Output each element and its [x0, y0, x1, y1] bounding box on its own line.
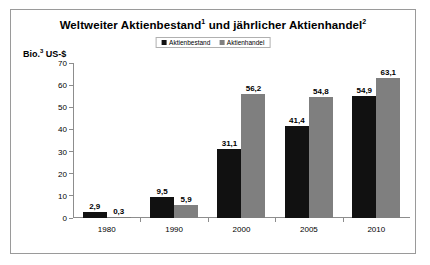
- bar-2000-aktienhandel[interactable]: 56,2: [241, 94, 265, 218]
- bar-pair: 41,454,8: [275, 63, 342, 218]
- chart-legend: Aktienbestand Aktienhandel: [156, 37, 271, 48]
- legend-label-aktienhandel: Aktienhandel: [227, 39, 265, 46]
- bar-group-2010: 54,963,12010: [343, 63, 410, 218]
- y-axis-tick-label: 0: [63, 214, 67, 223]
- chart-title-part-b: und jährlicher Aktienhandel: [205, 19, 362, 31]
- y-axis-tick-label: 40: [58, 125, 67, 134]
- bar-value-label: 63,1: [380, 68, 396, 77]
- legend-swatch-aktienhandel: [219, 40, 224, 45]
- x-axis-tick-label-2000: 2000: [208, 225, 275, 234]
- bar-2005-aktienhandel[interactable]: 54,8: [309, 97, 333, 218]
- x-axis-tick-label-1990: 1990: [140, 225, 207, 234]
- y-axis-tick-label: 20: [58, 169, 67, 178]
- y-axis-unit-currency: US-$: [43, 49, 66, 59]
- bar-1980-aktienhandel[interactable]: 0,3: [107, 217, 131, 218]
- bar-2010-aktienhandel[interactable]: 63,1: [376, 78, 400, 218]
- legend-item-aktienbestand[interactable]: Aktienbestand: [162, 39, 211, 46]
- chart-title: Weltweiter Aktienbestand1 und jährlicher…: [11, 19, 415, 31]
- y-axis-tick-label: 50: [58, 103, 67, 112]
- y-axis-unit-label: Bio.3 US-$: [23, 49, 66, 59]
- bar-pair: 54,963,1: [343, 63, 410, 218]
- legend-label-aktienbestand: Aktienbestand: [169, 39, 210, 46]
- bar-group-2005: 41,454,82005: [275, 63, 342, 218]
- bar-2010-aktienbestand[interactable]: 54,9: [352, 96, 376, 218]
- legend-item-aktienhandel[interactable]: Aktienhandel: [219, 39, 264, 46]
- x-axis-tick-label-2005: 2005: [275, 225, 342, 234]
- chart-title-part-a: Weltweiter Aktienbestand: [60, 19, 202, 31]
- bar-value-label: 41,4: [289, 116, 305, 125]
- bar-2000-aktienbestand[interactable]: 31,1: [217, 149, 241, 218]
- chart-frame: Weltweiter Aktienbestand1 und jährlicher…: [10, 9, 416, 254]
- y-axis-tick-label: 70: [58, 59, 67, 68]
- bar-pair: 2,90,3: [73, 63, 140, 218]
- x-axis-separator: [343, 218, 344, 222]
- bar-group-1990: 9,55,91990: [140, 63, 207, 218]
- bar-1990-aktienhandel[interactable]: 5,9: [174, 205, 198, 218]
- legend-swatch-aktienbestand: [162, 40, 167, 45]
- bar-pair: 31,156,2: [208, 63, 275, 218]
- y-axis-tick-label: 30: [58, 147, 67, 156]
- bar-value-label: 2,9: [89, 202, 100, 211]
- x-axis-separator: [208, 218, 209, 222]
- y-axis-unit-text: Bio.: [23, 49, 40, 59]
- y-axis-tick-label: 10: [58, 191, 67, 200]
- x-axis-tick-label-2010: 2010: [343, 225, 410, 234]
- bar-value-label: 54,8: [313, 87, 329, 96]
- bar-value-label: 0,3: [113, 207, 124, 216]
- bar-value-label: 54,9: [356, 86, 372, 95]
- x-axis-separator: [140, 218, 141, 222]
- bar-value-label: 31,1: [222, 139, 238, 148]
- bar-value-label: 56,2: [246, 84, 262, 93]
- plot-area: 010203040506070 2,90,319809,55,9199031,1…: [73, 63, 410, 218]
- bar-1980-aktienbestand[interactable]: 2,9: [83, 212, 107, 218]
- bar-pair: 9,55,9: [140, 63, 207, 218]
- x-axis-separator: [275, 218, 276, 222]
- y-axis-tick-label: 60: [58, 81, 67, 90]
- bar-group-1980: 2,90,31980: [73, 63, 140, 218]
- x-axis-tick-label-1980: 1980: [73, 225, 140, 234]
- bar-value-label: 5,9: [181, 195, 192, 204]
- bar-group-2000: 31,156,22000: [208, 63, 275, 218]
- bar-2005-aktienbestand[interactable]: 41,4: [285, 126, 309, 218]
- chart-title-footnote-2: 2: [362, 18, 366, 25]
- bar-value-label: 9,5: [157, 187, 168, 196]
- bar-1990-aktienbestand[interactable]: 9,5: [150, 197, 174, 218]
